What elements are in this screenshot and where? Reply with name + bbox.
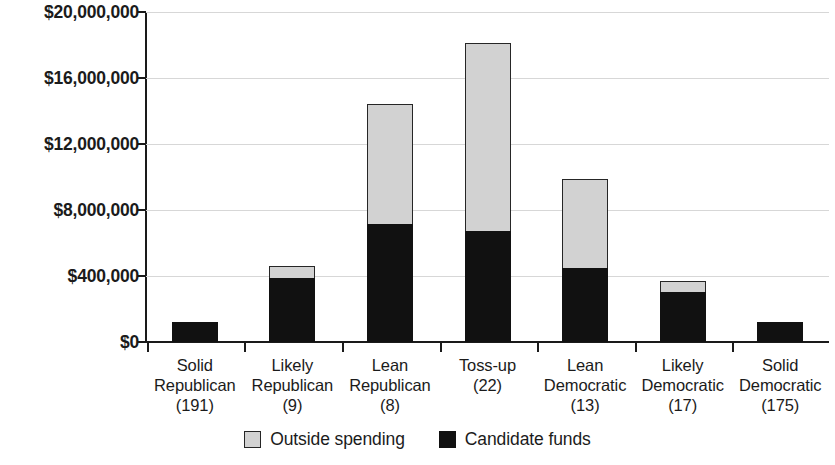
x-axis-category-label: Toss-up(22): [439, 355, 537, 395]
y-axis-labels: $0$400,000$8,000,000$12,000,000$16,000,0…: [0, 0, 139, 465]
x-axis-tick-mark: [635, 343, 637, 352]
y-axis-tick-label: $400,000: [68, 266, 139, 287]
bar-segment-outside-spending: [269, 266, 315, 278]
x-axis-tick-marks: [146, 343, 829, 353]
x-axis-category-line: (8): [341, 395, 439, 415]
bar-segment-candidate-funds: [269, 278, 315, 342]
bar-segment-candidate-funds: [660, 292, 706, 342]
bar-7: [757, 322, 803, 342]
x-axis-category-line: Likely: [634, 355, 732, 375]
x-axis-category-label: LeanRepublican(8): [341, 355, 439, 415]
bar-2: [269, 266, 315, 342]
bar-segment-outside-spending: [660, 281, 706, 292]
bar-segment-outside-spending: [465, 43, 511, 231]
x-axis-category-line: (13): [536, 395, 634, 415]
y-axis-tick-label: $8,000,000: [53, 200, 139, 221]
y-axis-tick-mark: [137, 275, 146, 277]
legend-item[interactable]: Candidate funds: [439, 429, 591, 450]
x-axis-tick-mark: [244, 343, 246, 352]
bar-segment-candidate-funds: [757, 322, 803, 342]
x-axis-tick-mark: [732, 343, 734, 352]
legend-item[interactable]: Outside spending: [244, 429, 405, 450]
legend-swatch-outside-spending: [244, 431, 261, 448]
bar-5: [562, 179, 608, 342]
y-axis-tick-label: $20,000,000: [44, 2, 139, 23]
x-axis-category-line: Lean: [536, 355, 634, 375]
x-axis-category-label: LikelyDemocratic(17): [634, 355, 732, 415]
plot-area: [146, 12, 829, 342]
y-axis-tick-label: $16,000,000: [44, 68, 139, 89]
x-axis-category-line: Republican: [146, 375, 244, 395]
x-axis-tick-mark: [147, 343, 149, 352]
chart-legend: Outside spendingCandidate funds: [0, 429, 835, 450]
x-axis-category-line: Democratic: [634, 375, 732, 395]
x-axis-tick-mark: [537, 343, 539, 352]
bar-segment-candidate-funds: [172, 322, 218, 342]
x-axis-category-label: SolidDemocratic(175): [731, 355, 829, 415]
x-axis-labels: SolidRepublican(191)LikelyRepublican(9)L…: [146, 355, 829, 417]
x-axis-tick-mark: [342, 343, 344, 352]
legend-label: Candidate funds: [465, 429, 591, 450]
bar-6: [660, 281, 706, 342]
bar-3: [367, 104, 413, 342]
bar-segment-candidate-funds: [562, 268, 608, 342]
bar-1: [172, 322, 218, 342]
x-axis-category-line: (22): [439, 375, 537, 395]
x-axis-category-line: (17): [634, 395, 732, 415]
y-axis-tick-mark: [137, 143, 146, 145]
y-axis-tick-mark: [137, 11, 146, 13]
y-axis-tick-mark: [137, 209, 146, 211]
x-axis-category-label: LikelyRepublican(9): [244, 355, 342, 415]
x-axis-category-line: Solid: [731, 355, 829, 375]
bar-segment-outside-spending: [367, 104, 413, 224]
x-axis-category-line: (9): [244, 395, 342, 415]
x-axis-category-line: Lean: [341, 355, 439, 375]
x-axis-category-line: Toss-up: [439, 355, 537, 375]
x-axis-category-line: (191): [146, 395, 244, 415]
x-axis-category-label: LeanDemocratic(13): [536, 355, 634, 415]
x-axis-category-line: Democratic: [536, 375, 634, 395]
bar-segment-outside-spending: [562, 179, 608, 268]
y-axis-tick-mark: [137, 77, 146, 79]
stacked-bar-chart: $0$400,000$8,000,000$12,000,000$16,000,0…: [0, 0, 835, 465]
x-axis-tick-mark: [440, 343, 442, 352]
legend-label: Outside spending: [270, 429, 405, 450]
x-axis-category-line: Republican: [244, 375, 342, 395]
y-axis-tick-mark: [137, 341, 146, 343]
x-axis-category-line: (175): [731, 395, 829, 415]
bar-4: [465, 43, 511, 342]
x-axis-category-line: Likely: [244, 355, 342, 375]
y-axis-tick-label: $12,000,000: [44, 134, 139, 155]
x-axis-category-label: SolidRepublican(191): [146, 355, 244, 415]
x-axis-category-line: Solid: [146, 355, 244, 375]
bar-segment-candidate-funds: [465, 231, 511, 342]
x-axis-category-line: Republican: [341, 375, 439, 395]
x-axis-category-line: Democratic: [731, 375, 829, 395]
gridline: [146, 12, 829, 13]
legend-swatch-candidate-funds: [439, 431, 456, 448]
bar-segment-candidate-funds: [367, 224, 413, 342]
